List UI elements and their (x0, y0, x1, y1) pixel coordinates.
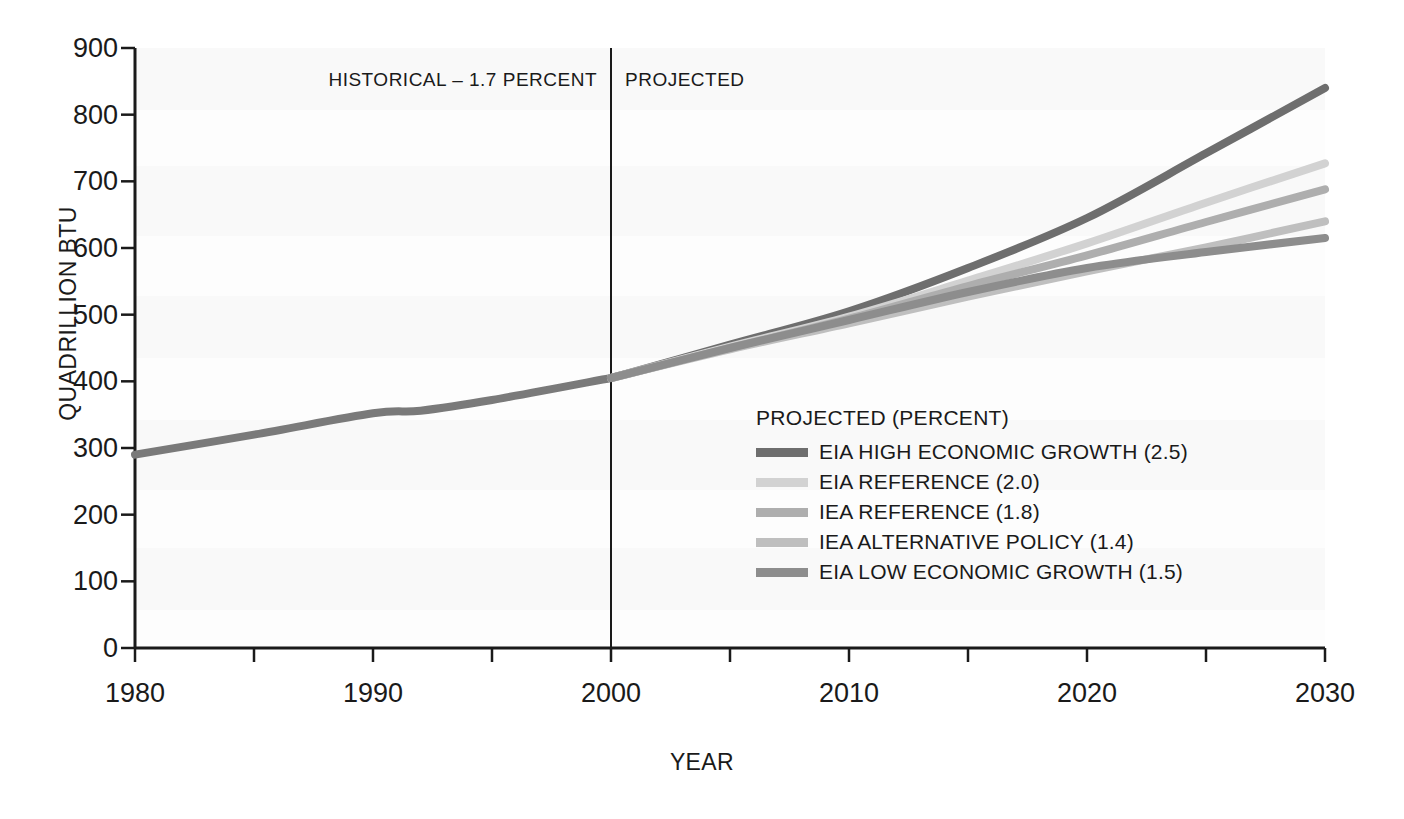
legend-item: EIA REFERENCE (2.0) (756, 467, 1188, 497)
legend-items: EIA HIGH ECONOMIC GROWTH (2.5)EIA REFERE… (756, 437, 1188, 587)
legend-color-swatch (756, 508, 808, 517)
x-tick-label: 1990 (313, 678, 433, 709)
x-tick-label: 2010 (789, 678, 909, 709)
y-tick-label: 900 (28, 33, 118, 64)
y-tick-label: 0 (28, 633, 118, 664)
legend-item-label: EIA HIGH ECONOMIC GROWTH (2.5) (819, 440, 1188, 464)
legend-item: EIA LOW ECONOMIC GROWTH (1.5) (756, 557, 1188, 587)
legend-item: IEA ALTERNATIVE POLICY (1.4) (756, 527, 1188, 557)
x-tick-label: 2030 (1265, 678, 1385, 709)
chart-root: 9008007006005004003002001000 19801990200… (0, 0, 1404, 819)
legend-item: IEA REFERENCE (1.8) (756, 497, 1188, 527)
y-axis-title: QUADRILLION BTU (55, 184, 82, 444)
legend-item-label: IEA ALTERNATIVE POLICY (1.4) (819, 530, 1134, 554)
y-tick-label: 800 (28, 99, 118, 130)
legend-title: PROJECTED (PERCENT) (756, 406, 1188, 430)
x-tick-label: 1980 (75, 678, 195, 709)
legend-item-label: EIA REFERENCE (2.0) (819, 470, 1040, 494)
historical-era-label: HISTORICAL – 1.7 PERCENT (0, 69, 597, 91)
legend-item-label: IEA REFERENCE (1.8) (819, 500, 1040, 524)
legend-item: EIA HIGH ECONOMIC GROWTH (2.5) (756, 437, 1188, 467)
x-tick-label: 2000 (551, 678, 671, 709)
x-tick-label: 2020 (1027, 678, 1147, 709)
chart-legend: PROJECTED (PERCENT) EIA HIGH ECONOMIC GR… (756, 406, 1188, 587)
legend-color-swatch (756, 478, 808, 487)
legend-color-swatch (756, 568, 808, 577)
x-axis-title: YEAR (0, 749, 1404, 776)
legend-color-swatch (756, 448, 808, 457)
legend-item-label: EIA LOW ECONOMIC GROWTH (1.5) (819, 560, 1183, 584)
chart-canvas (0, 0, 1404, 819)
y-tick-label: 100 (28, 566, 118, 597)
y-tick-label: 200 (28, 499, 118, 530)
projected-era-label: PROJECTED (625, 69, 745, 91)
legend-color-swatch (756, 538, 808, 547)
